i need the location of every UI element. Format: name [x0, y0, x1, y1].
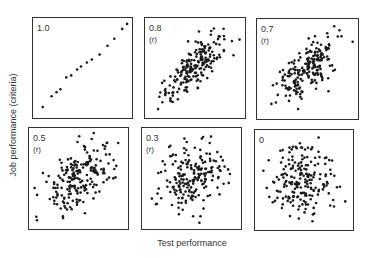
correlation-label: 0 [259, 135, 264, 146]
correlation-label: 0.5(r) [33, 133, 46, 155]
scatter-panel-r-0.5: 0.5(r) [28, 127, 129, 230]
r-value: 0 [259, 135, 264, 145]
correlation-label: 1.0 [37, 23, 50, 34]
r-symbol: (r) [33, 144, 46, 155]
scatter-panel-r-0.3: 0.3(r) [141, 127, 242, 230]
scatter-panel-r-0: 0 [254, 129, 354, 231]
x-axis-title: Test performance [157, 238, 227, 248]
scatter-panel-r-1.0: 1.0 [32, 17, 133, 119]
r-value: 1.0 [37, 23, 50, 33]
correlation-label: 0.3(r) [146, 133, 159, 155]
r-symbol: (r) [146, 144, 159, 155]
scatter-plot [255, 130, 352, 229]
r-symbol: (r) [261, 35, 274, 46]
y-axis-title: Job performance (criteria) [8, 73, 18, 176]
r-value: 0.7 [261, 24, 274, 34]
scatter-panel-r-0.7: 0.7(r) [256, 18, 359, 120]
r-value: 0.8 [149, 23, 162, 33]
r-symbol: (r) [149, 34, 162, 45]
correlation-label: 0.8(r) [149, 23, 162, 45]
correlation-label: 0.7(r) [261, 24, 274, 46]
r-value: 0.5 [33, 133, 46, 143]
scatter-panel-r-0.8: 0.8(r) [144, 17, 246, 119]
r-value: 0.3 [146, 133, 159, 143]
